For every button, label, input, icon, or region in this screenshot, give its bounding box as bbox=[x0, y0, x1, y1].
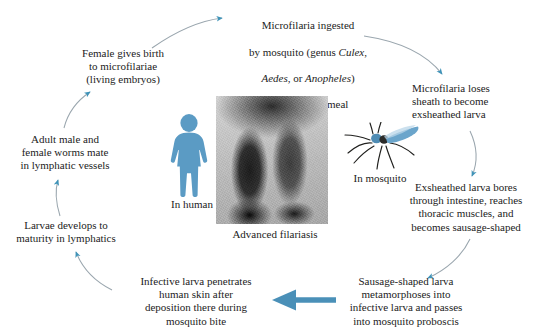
ingested-line3-post: ) bbox=[351, 72, 355, 84]
arrow-to-adults-mate bbox=[56, 180, 60, 216]
genus-culex: Culex bbox=[339, 46, 365, 58]
in-mosquito-label: In mosquito bbox=[332, 172, 428, 184]
arrow-to-female-births bbox=[64, 92, 90, 128]
step-text-bores: Exsheathed larva bores through intestine… bbox=[382, 181, 550, 234]
filariasis-life-cycle-diagram: Microfilaria ingested by mosquito (genus… bbox=[0, 0, 552, 336]
genus-anopheles: Anopheles bbox=[305, 72, 351, 84]
step-text-female-births: Female gives birth to microfilariae (liv… bbox=[60, 47, 186, 87]
step-text-adults-mate: Adult male and female worms mate in lymp… bbox=[6, 133, 124, 173]
ingested-line3-mid: , or bbox=[288, 72, 305, 84]
step-text-larvae-matures: Larvae develops to maturity in lymphatic… bbox=[4, 219, 128, 245]
step-text-loses-sheath: Microfilaria loses sheath to become exsh… bbox=[412, 82, 546, 122]
step-text-penetrates: Infective larva penetrates human skin af… bbox=[112, 275, 280, 328]
arrow-to-larvae-matures bbox=[76, 252, 112, 290]
ingested-line2-mid: , bbox=[364, 46, 367, 58]
advanced-filariasis-photo bbox=[216, 96, 328, 224]
photo-grain-overlay bbox=[216, 96, 328, 224]
photo-caption: Advanced filariasis bbox=[204, 228, 346, 240]
human-figure-icon bbox=[160, 113, 218, 199]
in-human-label: In human bbox=[152, 198, 232, 210]
step-text-metamorphoses: Sausage-shaped larva metamorphoses into … bbox=[318, 275, 494, 328]
ingested-line1: Microfilaria ingested bbox=[262, 19, 355, 31]
ingested-line2-pre: by mosquito (genus bbox=[249, 46, 339, 58]
mosquito-icon bbox=[334, 122, 426, 174]
genus-aedes: Aedes bbox=[261, 72, 287, 84]
arrow-to-ingested bbox=[152, 18, 222, 48]
arrow-to-metamorphoses bbox=[428, 239, 470, 278]
arrow-to-bores bbox=[470, 131, 476, 176]
